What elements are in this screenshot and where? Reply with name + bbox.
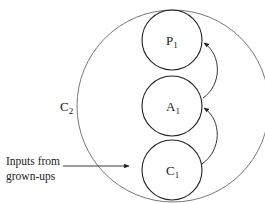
label-c2: C2 [60,99,73,116]
label-a1: A1 [166,99,180,116]
label-p1: P1 [166,33,178,50]
arrow-a1-to-p1 [203,43,217,98]
label-c1: C1 [166,163,179,180]
input-label-line2: grown-ups [6,170,56,183]
arrow-c1-to-a1 [202,108,217,164]
input-label-line1: Inputs from [6,155,60,168]
diagram-canvas: P1 A1 C1 C2 Inputs from grown-ups [0,0,265,203]
